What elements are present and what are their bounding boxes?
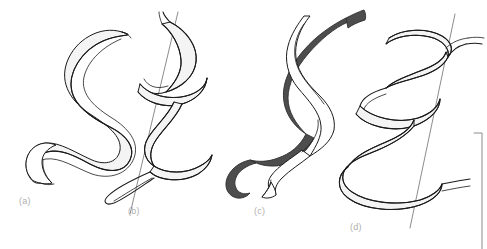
figure-container: .edge { fill: none; stroke: #1a1a1a; str…: [0, 0, 487, 249]
figure-illustration: .edge { fill: none; stroke: #1a1a1a; str…: [0, 0, 487, 249]
panel-label-c: (c): [254, 206, 265, 216]
panel-label-d: (d): [350, 222, 362, 232]
panel-label-b: (b): [128, 206, 140, 216]
panel-label-a: (a): [19, 196, 31, 206]
